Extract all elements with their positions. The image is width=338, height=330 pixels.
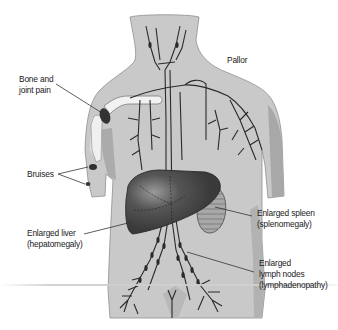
label-enlarged-spleen: Enlarged spleen (splenomegaly) [257,207,315,229]
label-bone-joint-pain: Bone and joint pain [19,73,53,95]
label-bruises: Bruises [27,168,54,179]
label-enlarged-liver: Enlarged liver (hepatomegaly) [27,227,83,249]
leader-bruise-upper [58,167,88,174]
torso-body [85,15,284,318]
leader-bruise-lower [58,174,85,184]
anatomy-figure: Pallor Bone and joint pain Bruises Enlar… [0,0,338,330]
label-pallor: Pallor [227,54,247,65]
label-enlarged-lymph-nodes: Enlarged lymph nodes (lymphadenopathy) [259,257,328,290]
